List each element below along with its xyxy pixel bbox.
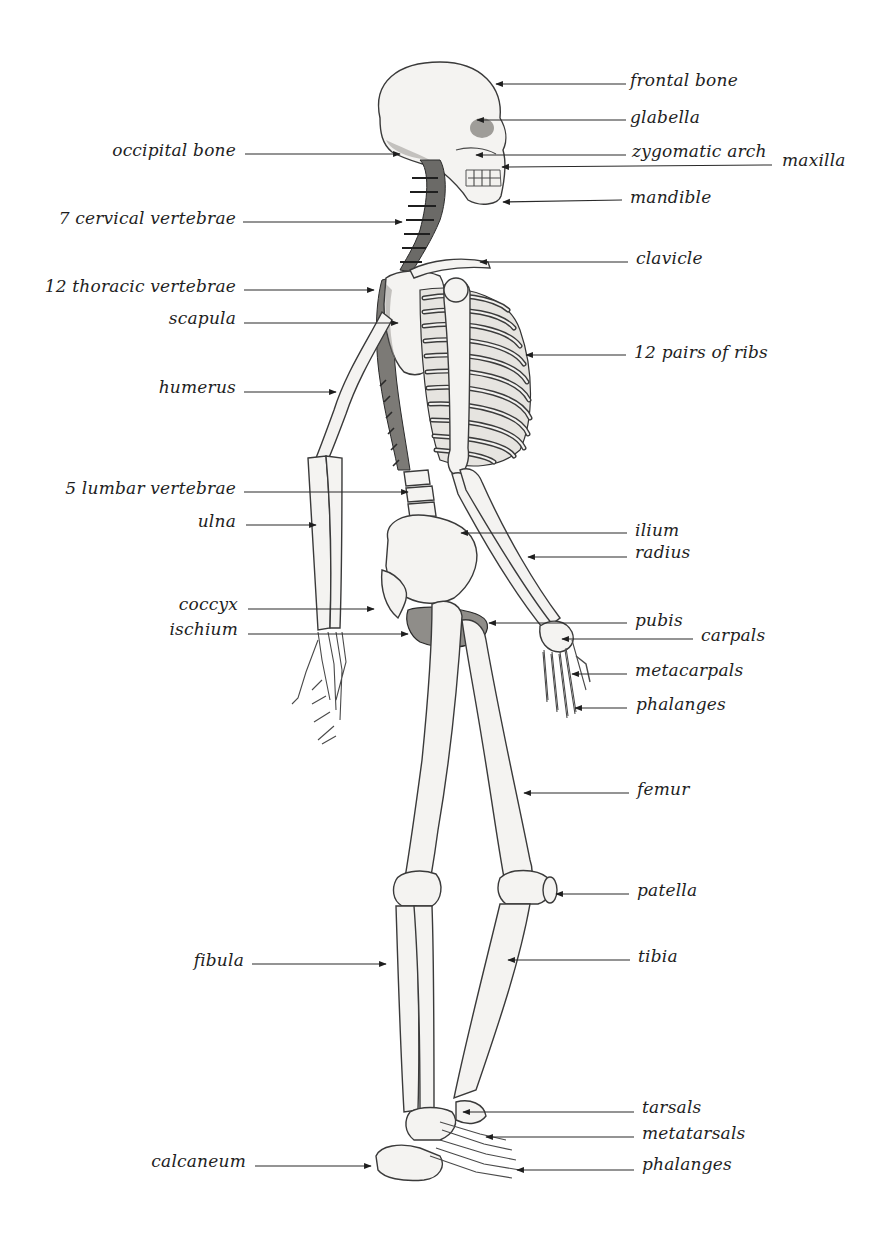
- label-zygomatic-arch: zygomatic arch: [632, 141, 767, 161]
- label-occipital-bone: occipital bone: [112, 140, 236, 160]
- label-scapula: scapula: [169, 308, 236, 328]
- label-thoracic-vertebrae: 12 thoracic vertebrae: [45, 276, 236, 296]
- label-femur: femur: [637, 779, 690, 799]
- label-metatarsals: metatarsals: [642, 1123, 745, 1143]
- back-leg: [394, 601, 462, 1112]
- label-mandible: mandible: [630, 187, 712, 207]
- label-ilium: ilium: [635, 520, 679, 540]
- far-hand: [292, 632, 346, 744]
- label-cervical-vertebrae: 7 cervical vertebrae: [59, 208, 236, 228]
- label-phalanges-hand: phalanges: [636, 694, 726, 714]
- label-tarsals: tarsals: [642, 1097, 702, 1117]
- label-glabella: glabella: [630, 107, 700, 127]
- maxilla-leader-arrow: [502, 165, 772, 167]
- label-pubis: pubis: [635, 610, 683, 630]
- label-phalanges-foot: phalanges: [642, 1154, 732, 1174]
- rib-cage: [420, 288, 531, 466]
- label-radius: radius: [635, 542, 690, 562]
- label-maxilla: maxilla: [782, 150, 846, 170]
- label-metacarpals: metacarpals: [635, 660, 743, 680]
- label-lumbar-vertebrae: 5 lumbar vertebrae: [65, 478, 236, 498]
- mandible-leader-arrow: [503, 200, 622, 202]
- label-coccyx: coccyx: [179, 594, 238, 614]
- label-ischium: ischium: [169, 619, 238, 639]
- label-calcaneum: calcaneum: [151, 1151, 246, 1171]
- far-arm: [292, 312, 392, 744]
- front-leg: [454, 620, 557, 1098]
- skeleton-diagram: frontal boneglabellazygomatic archmaxill…: [0, 0, 896, 1252]
- label-clavicle: clavicle: [636, 248, 703, 268]
- label-fibula: fibula: [194, 950, 244, 970]
- lumbar-spine: [404, 470, 436, 518]
- label-humerus: humerus: [159, 377, 236, 397]
- label-tibia: tibia: [638, 946, 678, 966]
- label-ribs: 12 pairs of ribs: [634, 342, 768, 362]
- label-ulna: ulna: [198, 511, 236, 531]
- near-hand: [540, 621, 590, 718]
- label-patella: patella: [637, 880, 697, 900]
- feet: [376, 1101, 520, 1181]
- label-frontal-bone: frontal bone: [630, 70, 738, 90]
- label-carpals: carpals: [701, 625, 765, 645]
- cervical-spine: [400, 160, 445, 272]
